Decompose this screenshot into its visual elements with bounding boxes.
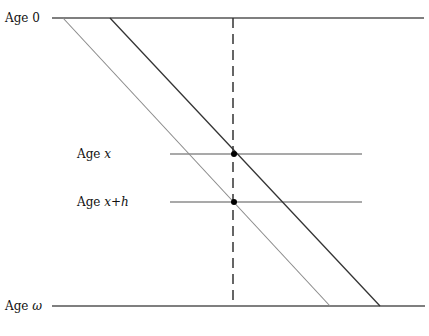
- label-age-omega-var: ω: [32, 299, 42, 313]
- label-age-0-prefix: Age: [5, 11, 32, 25]
- label-age-0-var: 0: [32, 11, 40, 25]
- label-age-x-prefix: Age: [77, 147, 104, 161]
- label-age-x-var: x: [104, 147, 111, 161]
- age-diagram: Age 0 Age x Age x+h Age ω: [0, 0, 429, 336]
- label-age-0: Age 0: [5, 11, 40, 25]
- point-age-x-h: [231, 199, 237, 205]
- diagram-canvas: [0, 0, 429, 336]
- label-age-x-h: Age x+h: [77, 195, 129, 209]
- diagonal-right-line: [110, 18, 380, 306]
- label-age-omega-prefix: Age: [5, 299, 32, 313]
- label-age-x: Age x: [77, 147, 111, 161]
- label-age-x-h-var: x+h: [104, 195, 129, 209]
- label-age-omega: Age ω: [5, 299, 42, 313]
- point-age-x: [231, 151, 237, 157]
- label-age-x-h-prefix: Age: [77, 195, 104, 209]
- diagonal-left-line: [63, 18, 330, 306]
